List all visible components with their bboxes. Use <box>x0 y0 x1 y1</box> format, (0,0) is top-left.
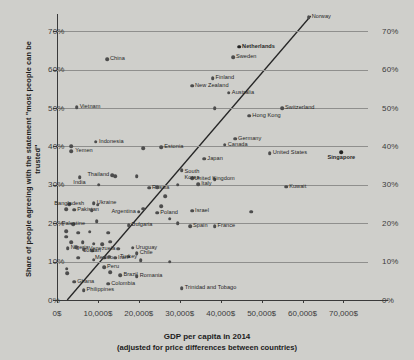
data-point <box>180 287 184 291</box>
data-point <box>155 211 159 215</box>
data-point <box>164 195 168 199</box>
data-point <box>268 151 272 155</box>
data-point-label: Kuwait <box>289 183 306 189</box>
x-axis-line <box>57 300 388 301</box>
data-point <box>75 106 79 110</box>
data-point <box>307 15 311 19</box>
x-axis-tick-label: 60,000$ <box>288 309 317 318</box>
data-point-label: Pakistan <box>77 206 99 212</box>
y-axis-tick-mark <box>53 185 57 186</box>
data-point <box>176 221 180 225</box>
x-axis-tick-mark <box>343 300 344 303</box>
data-point-label: New Zealand <box>195 82 229 88</box>
x-axis-tick-label: 0$ <box>53 309 62 318</box>
data-point <box>119 274 123 278</box>
data-point-label: Philippines <box>87 286 115 292</box>
x-axis-tick-mark <box>180 300 181 303</box>
x-axis-tick-mark <box>98 300 99 303</box>
data-point <box>237 45 241 49</box>
data-point-label: Spain <box>193 222 208 228</box>
x-axis-title-main: GDP per capita in 2014 <box>164 332 251 341</box>
data-point <box>203 157 207 161</box>
data-point-label: India <box>73 179 85 185</box>
data-point <box>69 145 73 149</box>
data-point <box>92 258 96 262</box>
data-point <box>106 231 110 235</box>
x-axis-tick-mark <box>57 300 58 303</box>
data-point <box>160 204 164 208</box>
x-axis-title-sub: (adjusted for price differences between … <box>117 343 297 352</box>
data-point <box>155 185 159 189</box>
data-point <box>102 265 106 269</box>
data-point-label: Finland <box>216 74 235 80</box>
x-axis-tick-label: 10,000$ <box>83 309 112 318</box>
data-point <box>97 183 101 187</box>
y-axis-tick-mark <box>53 223 57 224</box>
data-point-label: Venezuela <box>89 245 116 251</box>
data-point <box>135 175 139 179</box>
gridline <box>57 185 368 186</box>
data-point <box>180 168 184 172</box>
data-point-label: Argentina <box>111 208 135 214</box>
data-point <box>108 255 112 259</box>
data-point-label: Italy <box>201 180 212 186</box>
data-point <box>72 208 76 212</box>
data-point <box>65 235 69 239</box>
data-point <box>65 208 69 212</box>
data-point <box>147 186 151 190</box>
data-point-label: Colombia <box>111 280 135 286</box>
data-point <box>168 217 172 221</box>
x-axis-title: GDP per capita in 2014 (adjusted for pri… <box>0 332 414 353</box>
data-point-label: Chile <box>140 249 153 255</box>
data-point <box>231 56 235 60</box>
data-point <box>141 207 145 211</box>
data-point-label: Canada <box>228 141 248 147</box>
data-point <box>70 149 74 153</box>
data-point-label: Bulgaria <box>132 221 153 227</box>
data-point-label: Thailand <box>87 171 109 177</box>
data-point <box>90 208 94 212</box>
data-point <box>131 246 135 250</box>
data-point <box>127 223 131 227</box>
data-point-label: United States <box>273 149 307 155</box>
data-point <box>64 229 68 233</box>
data-point-label: Yemen <box>75 147 92 153</box>
gridline <box>57 31 368 32</box>
data-point <box>211 76 215 80</box>
y-axis-tick-mark <box>53 70 57 71</box>
data-point-label: Vietnam <box>80 103 101 109</box>
data-point-label: Singapore <box>327 154 355 160</box>
data-point-label: Palestine <box>62 220 85 226</box>
x-axis-tick-mark <box>139 300 140 303</box>
data-point <box>65 267 69 271</box>
x-axis-tick-mark <box>303 300 304 303</box>
data-point-label: Poland <box>160 209 178 215</box>
x-axis-tick-label: 30,000$ <box>165 309 194 318</box>
y-axis-tick-mark <box>53 146 57 147</box>
data-point <box>108 271 112 275</box>
data-point-label: Netherlands <box>242 43 275 49</box>
data-point-label: Hong Kong <box>252 112 280 118</box>
data-point <box>94 140 98 144</box>
x-axis-tick-label: 50,000$ <box>247 309 276 318</box>
data-point <box>223 143 227 147</box>
data-point-label: Japan <box>207 155 223 161</box>
data-point <box>113 256 117 260</box>
data-point <box>250 210 254 214</box>
data-point <box>74 245 78 249</box>
y-axis-title: Share of people agreeing with the statem… <box>24 34 42 284</box>
data-point-label: Trinidad and Tobago <box>185 284 237 290</box>
y-axis-tick-mark <box>53 108 57 109</box>
data-point-label: Switzerland <box>285 104 314 110</box>
plot-area: NorwayNetherlandsSwedenChinaFinlandNew Z… <box>57 16 368 300</box>
y-axis-tick-mark <box>53 262 57 263</box>
data-point-label: Norway <box>312 13 331 19</box>
data-point <box>137 210 141 214</box>
gridline <box>57 146 368 147</box>
data-point <box>188 225 192 229</box>
data-point-label: Ukraine <box>97 199 117 205</box>
data-point-label: Peru <box>107 263 119 269</box>
data-point <box>196 182 200 186</box>
data-point <box>139 259 143 263</box>
gridline <box>57 70 368 71</box>
